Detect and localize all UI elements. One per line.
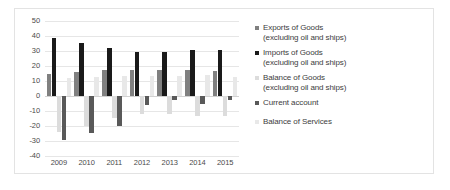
bar — [130, 70, 135, 96]
bar — [102, 70, 107, 96]
bar — [107, 48, 112, 96]
y-axis-tick-label: -30 — [29, 137, 40, 145]
legend-item-label: Current account — [263, 98, 318, 108]
x-axis: 2009201020112012201320142015 — [45, 159, 239, 171]
bar — [135, 52, 140, 96]
bar — [112, 96, 117, 118]
y-axis-tick-label: 40 — [32, 32, 40, 40]
y-axis-tick-label: 50 — [32, 17, 40, 25]
bar — [89, 96, 94, 133]
legend-item-label: Exports of Goods (excluding oil and ship… — [263, 23, 346, 43]
bar — [213, 71, 218, 97]
bar — [218, 50, 223, 96]
bar — [177, 76, 182, 96]
bar — [62, 96, 67, 140]
legend-item[interactable]: Imports of Goods (excluding oil and ship… — [255, 48, 431, 68]
legend-item[interactable]: Balance of Services — [255, 117, 431, 127]
legend-swatch-icon — [255, 101, 259, 105]
bar — [223, 96, 228, 116]
bar — [47, 74, 52, 96]
bar — [84, 96, 89, 126]
bar — [157, 70, 162, 96]
legend-item[interactable]: Current account — [255, 98, 431, 108]
bar — [172, 96, 177, 100]
bar — [94, 77, 99, 96]
bar — [195, 96, 200, 116]
bar — [228, 96, 233, 100]
y-axis-tick-label: 0 — [36, 92, 40, 100]
bar — [185, 70, 190, 96]
legend-swatch-icon — [255, 120, 259, 124]
bar — [145, 96, 150, 105]
legend-swatch-icon — [255, 76, 259, 80]
bar — [117, 96, 122, 126]
bar — [205, 75, 210, 96]
chart-legend: Exports of Goods (excluding oil and ship… — [255, 23, 431, 132]
bar — [57, 96, 62, 132]
y-axis-tick-label: -10 — [29, 107, 40, 115]
bars-layer — [45, 21, 239, 156]
legend-item-label: Balance of Goods (excluding oil and ship… — [263, 73, 346, 93]
x-axis-tick-label: 2014 — [189, 159, 205, 167]
bar — [167, 96, 172, 114]
bar — [233, 77, 238, 97]
y-axis-tick-label: -20 — [29, 122, 40, 130]
bar — [79, 43, 84, 96]
legend-item-label: Balance of Services — [263, 117, 332, 127]
bar — [140, 96, 145, 114]
bar — [162, 52, 167, 96]
chart-container: 50403020100-10-20-30-40 2009201020112012… — [14, 8, 434, 174]
y-axis-tick-label: 30 — [32, 47, 40, 55]
legend-item-label: Imports of Goods (excluding oil and ship… — [263, 48, 346, 68]
y-axis-tick-label: 10 — [32, 77, 40, 85]
bar — [150, 76, 155, 96]
bar — [122, 76, 127, 96]
bar — [52, 38, 57, 96]
legend-swatch-icon — [255, 26, 259, 30]
bar — [74, 72, 79, 96]
legend-swatch-icon — [255, 51, 259, 55]
x-axis-tick-label: 2011 — [106, 159, 122, 167]
x-axis-tick-label: 2015 — [217, 159, 233, 167]
x-axis-tick-label: 2012 — [134, 159, 150, 167]
bar — [190, 50, 195, 96]
x-axis-tick-label: 2010 — [78, 159, 94, 167]
y-axis-tick-label: 20 — [32, 62, 40, 70]
x-axis-tick-label: 2013 — [162, 159, 178, 167]
bar — [200, 96, 205, 104]
plot-area — [45, 21, 239, 156]
gridline — [45, 156, 239, 157]
legend-item[interactable]: Balance of Goods (excluding oil and ship… — [255, 73, 431, 93]
y-axis: 50403020100-10-20-30-40 — [15, 21, 43, 156]
legend-item[interactable]: Exports of Goods (excluding oil and ship… — [255, 23, 431, 43]
x-axis-tick-label: 2009 — [51, 159, 67, 167]
bar — [67, 78, 72, 96]
y-axis-tick-label: -40 — [29, 152, 40, 160]
